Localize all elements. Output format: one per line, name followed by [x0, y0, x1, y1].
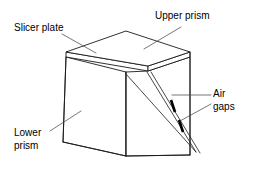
label-upper-prism: Upper prism	[155, 10, 209, 21]
lower-prism-body	[63, 57, 190, 156]
label-slicer-plate: Slicer plate	[14, 22, 64, 33]
label-air-gaps-line-2: gaps	[213, 101, 235, 112]
slicer-prism-figure: Slicer plate Upper prism Air gaps Lower …	[0, 0, 256, 173]
lower-prism-right-face	[126, 57, 190, 156]
label-lower-prism-line-2: prism	[14, 140, 38, 151]
label-lower-prism-line-1: Lower	[14, 127, 42, 138]
label-air-gaps-line-1: Air	[213, 88, 226, 99]
lower-prism-left-face	[63, 57, 126, 156]
diagram-page: Slicer plate Upper prism Air gaps Lower …	[0, 0, 256, 173]
